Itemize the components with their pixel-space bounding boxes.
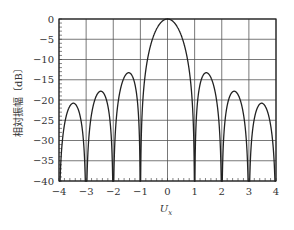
y-tick-label: −25 xyxy=(33,115,54,126)
grid-lines xyxy=(59,19,276,181)
y-tick-label: −10 xyxy=(33,54,54,65)
x-axis-title: Ux xyxy=(160,203,172,217)
y-tick-label: 0 xyxy=(48,14,54,25)
y-tick-label: −40 xyxy=(33,176,54,187)
x-tick-label: 0 xyxy=(164,186,170,197)
y-tick-label: −30 xyxy=(33,135,54,146)
x-tick-label: −3 xyxy=(79,186,94,197)
y-tick-label: −20 xyxy=(33,95,54,106)
y-tick-label: −35 xyxy=(33,155,54,166)
y-axis-title: 相対振幅〔dB〕 xyxy=(12,63,24,137)
y-tick-label: −5 xyxy=(39,34,54,45)
x-tick-label: −4 xyxy=(52,186,67,197)
y-tick-labels: 0−5−10−15−20−25−30−35−40 xyxy=(33,14,54,187)
x-tick-label: 4 xyxy=(273,186,279,197)
x-tick-label: 1 xyxy=(191,186,197,197)
x-tick-label: −1 xyxy=(133,186,148,197)
y-tick-label: −15 xyxy=(33,74,54,85)
x-axis-title-sub: x xyxy=(168,209,172,217)
sinc-pattern-chart: 0−5−10−15−20−25−30−35−40 −4−3−2−101234 相… xyxy=(0,0,294,230)
x-tick-label: 3 xyxy=(246,186,252,197)
x-tick-label: 2 xyxy=(219,186,225,197)
x-tick-label: −2 xyxy=(106,186,121,197)
x-tick-labels: −4−3−2−101234 xyxy=(52,186,280,197)
